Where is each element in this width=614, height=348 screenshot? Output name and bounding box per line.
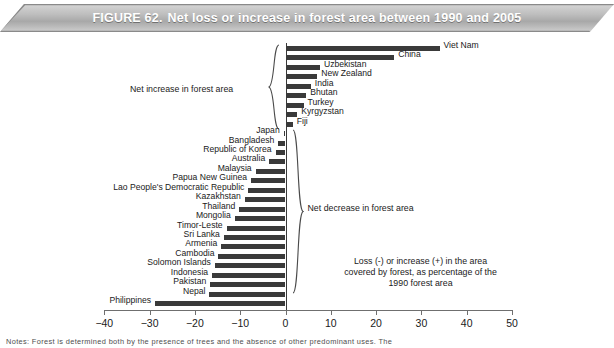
x-axis-tick (195, 310, 196, 315)
bar-category-label: Philippines (109, 296, 151, 305)
bar (245, 197, 286, 202)
bar (286, 65, 320, 70)
bar (286, 112, 298, 117)
chart-plot-area: Net increase in forest area Net decrease… (0, 40, 614, 310)
bar-row: Sri Lanka (224, 235, 286, 240)
x-axis-line (104, 310, 512, 311)
axis-caption: Loss (-) or increase (+) in the area cov… (306, 256, 536, 289)
bar (286, 93, 307, 98)
net-decrease-label: Net decrease in forest area (308, 203, 414, 214)
x-axis-tick (286, 310, 287, 315)
bar (218, 254, 285, 259)
bar-category-label: Pakistan (173, 277, 206, 286)
bar-category-label: Fiji (297, 117, 308, 126)
bar-row: New Zealand (286, 74, 318, 79)
net-increase-bracket (268, 44, 280, 130)
bar-row: Lao People's Democratic Republic (248, 188, 285, 193)
bar (155, 301, 285, 306)
bar-row: Thailand (239, 207, 285, 212)
x-axis-tick-label: −20 (175, 317, 215, 329)
bar (210, 282, 285, 287)
x-axis-tick-label: 50 (492, 317, 532, 329)
x-axis-end-cap (512, 310, 513, 315)
bar-category-label: Mongolia (196, 211, 231, 220)
bar (209, 292, 285, 297)
bar (215, 263, 286, 268)
figure-title: Net loss or increase in forest area betw… (168, 11, 522, 25)
bar-row: Mongolia (235, 216, 286, 221)
bar-category-label: China (398, 50, 420, 59)
banner-text: FIGURE 62. Net loss or increase in fores… (0, 4, 614, 32)
bar-row: Kyrgyzstan (286, 112, 298, 117)
bar-row: Pakistan (210, 282, 285, 287)
x-axis-tick-label: 30 (401, 317, 441, 329)
x-axis-tick (467, 310, 468, 315)
bar-row: Indonesia (212, 273, 285, 278)
bar-row: Solomon Islands (215, 263, 286, 268)
net-increase-label: Net increase in forest area (130, 84, 233, 95)
x-axis-tick (240, 310, 241, 315)
caption-line-3: 1990 forest area (306, 278, 536, 289)
bar (286, 122, 293, 127)
x-axis-tick-label: −10 (220, 317, 260, 329)
bar (284, 131, 286, 136)
figure-footnote: Notes: Forest is determined both by the … (6, 337, 608, 347)
bar (224, 235, 286, 240)
x-axis-tick (376, 310, 377, 315)
bar-category-label: Kazakhstan (196, 192, 241, 201)
x-axis-end-cap (104, 310, 105, 315)
bar (276, 150, 286, 155)
bar-category-label: Solomon Islands (147, 258, 211, 267)
x-axis-tick (421, 310, 422, 315)
bar-category-label: Japan (256, 126, 279, 135)
figure-title-banner: FIGURE 62. Net loss or increase in fores… (0, 4, 614, 34)
bar (227, 226, 286, 231)
bar-row: Japan (284, 131, 286, 136)
bar (286, 74, 318, 79)
bar-category-label: Viet Nam (444, 41, 479, 50)
bar-row: Kazakhstan (245, 197, 286, 202)
bar (248, 188, 285, 193)
x-axis-tick (150, 310, 151, 315)
bar-row: Timor-Leste (227, 226, 286, 231)
bar (256, 169, 286, 174)
net-decrease-bracket (292, 129, 304, 294)
bar (286, 84, 311, 89)
bar (235, 216, 286, 221)
bar (212, 273, 285, 278)
x-axis-tick-label: 20 (356, 317, 396, 329)
x-axis-tick-label: 40 (447, 317, 487, 329)
bar (221, 244, 285, 249)
bar (269, 159, 285, 164)
bar-row: Malaysia (256, 169, 286, 174)
bar-category-label: Nepal (183, 287, 205, 296)
figure-number: FIGURE 62. (92, 11, 162, 25)
bar-category-label: Papua New Guinea (173, 173, 248, 182)
bar-category-label: New Zealand (321, 69, 372, 78)
x-axis-tick-label: 0 (266, 317, 306, 329)
x-axis-tick-label: −30 (130, 317, 170, 329)
bar (239, 207, 285, 212)
bar-row: India (286, 84, 311, 89)
figure-container: FIGURE 62. Net loss or increase in fores… (0, 0, 614, 348)
x-axis-tick (331, 310, 332, 315)
bar-row: Bhutan (286, 93, 307, 98)
caption-line-2: covered by forest, as percentage of the (306, 267, 536, 278)
caption-line-1: Loss (-) or increase (+) in the area (306, 256, 536, 267)
bar-row: Republic of Korea (276, 150, 286, 155)
x-axis-tick-label: −40 (84, 317, 124, 329)
bar-row: Nepal (209, 292, 285, 297)
bar-row: Armenia (221, 244, 285, 249)
bar-row: Cambodia (218, 254, 285, 259)
bar-row: Australia (269, 159, 285, 164)
bar-row: Papua New Guinea (251, 178, 285, 183)
bar (251, 178, 285, 183)
bar-category-label: Kyrgyzstan (301, 107, 344, 116)
bar-row: Fiji (286, 122, 293, 127)
bar-row: Uzbekistan (286, 65, 320, 70)
x-axis-tick-label: 10 (311, 317, 351, 329)
bar-row: Bangladesh (278, 141, 285, 146)
bar-row: Philippines (155, 301, 285, 306)
bar (278, 141, 285, 146)
bar-category-label: Bhutan (310, 88, 337, 97)
